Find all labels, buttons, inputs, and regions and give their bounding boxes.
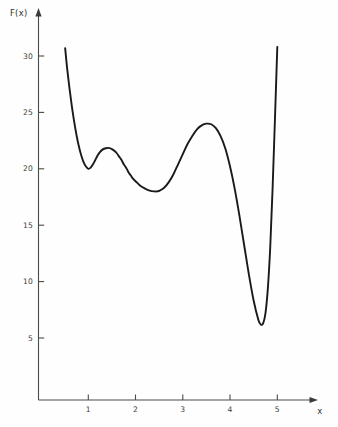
y-tick-label-15: 15 [23, 221, 33, 230]
plot-background [0, 0, 338, 427]
y-tick-label-25: 25 [23, 108, 33, 117]
function-plot-svg: 30 25 20 15 10 5 1 2 3 4 5 F(x [0, 0, 338, 427]
x-tick-label-2: 2 [133, 405, 138, 414]
y-tick-label-5: 5 [28, 334, 33, 343]
x-axis-title: x [317, 406, 322, 416]
x-tick-label-4: 4 [227, 405, 232, 414]
y-axis-title: F(x) [10, 8, 28, 18]
y-tick-label-10: 10 [23, 277, 33, 286]
x-tick-label-5: 5 [275, 405, 280, 414]
x-tick-label-1: 1 [86, 405, 91, 414]
y-tick-label-30: 30 [23, 52, 33, 61]
chart-figure: 30 25 20 15 10 5 1 2 3 4 5 F(x [0, 0, 338, 427]
x-tick-label-3: 3 [180, 405, 185, 414]
y-tick-label-20: 20 [23, 164, 33, 173]
